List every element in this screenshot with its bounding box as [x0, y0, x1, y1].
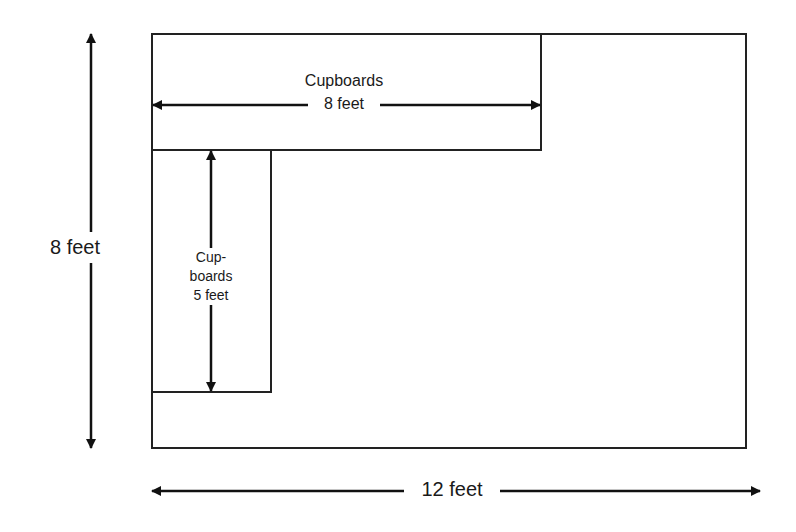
room-width-label: 12 feet — [404, 478, 500, 501]
side-cupboard-name-line1: Cup- — [178, 248, 244, 267]
room-outline — [152, 34, 746, 448]
top-cupboard — [152, 34, 541, 150]
side-cupboard-length: 5 feet — [178, 286, 244, 305]
side-cupboard-label: Cup- boards 5 feet — [178, 248, 244, 305]
room-height-label: 8 feet — [40, 232, 110, 263]
top-cupboard-length: 8 feet — [308, 95, 380, 113]
top-cupboard-name: Cupboards — [282, 72, 406, 90]
side-cupboard-name-line2: boards — [178, 267, 244, 286]
